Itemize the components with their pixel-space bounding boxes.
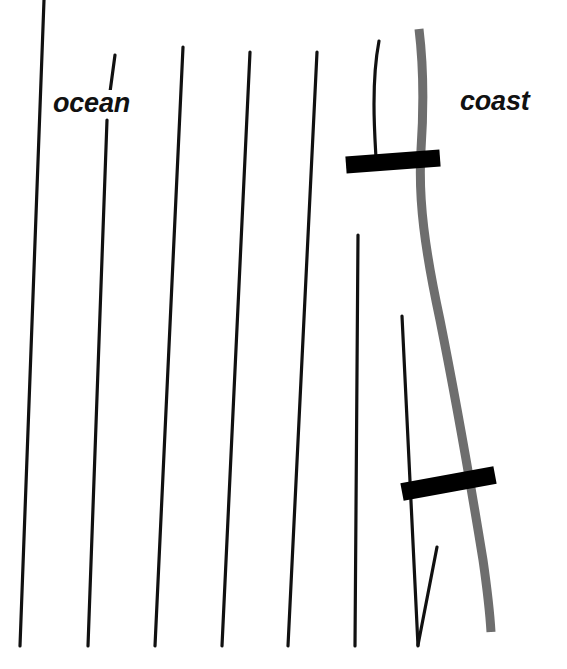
figure-canvas: ocean coast	[0, 0, 567, 669]
contour-2-lower	[88, 120, 107, 646]
contour-3	[155, 47, 183, 646]
contour-5	[288, 52, 317, 646]
contour-1	[20, 0, 44, 646]
ocean-label: ocean	[48, 90, 135, 117]
contour-6	[355, 235, 358, 646]
bar-upper	[346, 158, 440, 165]
contour-8	[418, 547, 437, 645]
bar-lower	[402, 475, 495, 492]
contour-2-upper	[110, 55, 115, 92]
coast-label: coast	[455, 88, 535, 115]
coastline-path	[419, 29, 491, 632]
contour-4	[222, 52, 250, 646]
contour-7-top-curved	[374, 41, 379, 158]
